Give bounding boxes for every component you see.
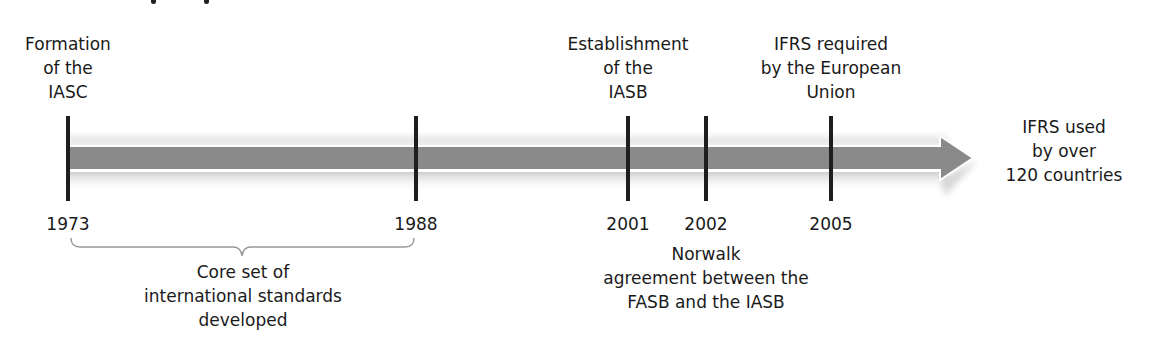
year-label-2002: 2002 [684,212,727,236]
label-line: IFRS required [761,32,902,56]
label-line: Core set of [144,260,342,284]
label-line: international standards [144,284,342,308]
year-label-1988: 1988 [394,212,437,236]
label-line: by the European [761,56,902,80]
tick-1988 [414,116,418,201]
year-label-2005: 2005 [809,212,852,236]
label-line: Formation [25,32,111,56]
label-line: IFRS used [1006,115,1123,139]
label-line: agreement between the [603,266,808,290]
label-line: 120 countries [1006,163,1123,187]
tick-2002 [704,116,708,201]
tick-2001 [626,116,630,201]
label-line: Establishment [567,32,688,56]
label-line: FASB and the IASB [603,290,808,314]
label-line: Union [761,80,902,104]
tick-1973 [66,116,70,201]
label-line: IASC [25,80,111,104]
event-label-eu-ifrs: IFRS required by the European Union [761,32,902,104]
end-note-ifrs-countries: IFRS used by over 120 countries [1006,115,1123,187]
tick-2005 [829,116,833,201]
label-line: of the [567,56,688,80]
label-line: developed [144,308,342,332]
label-line: IASB [567,80,688,104]
event-label-iasb-establishment: Establishment of the IASB [567,32,688,104]
bracket-core-standards [71,238,414,256]
year-label-2001: 2001 [606,212,649,236]
label-line: of the [25,56,111,80]
label-line: by over [1006,139,1123,163]
label-line: Norwalk [603,242,808,266]
note-core-standards: Core set of international standards deve… [144,260,342,332]
note-norwalk-agreement: Norwalk agreement between the FASB and t… [603,242,808,314]
year-label-1973: 1973 [46,212,89,236]
event-label-iasc-formation: Formation of the IASC [25,32,111,104]
